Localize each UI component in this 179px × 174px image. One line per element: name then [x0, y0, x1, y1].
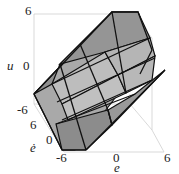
- surface-plot: [0, 0, 179, 174]
- x-tick-neg6: -6: [56, 151, 67, 164]
- y-tick-6: 6: [30, 118, 37, 131]
- z-tick-neg6: -6: [17, 103, 28, 116]
- z-axis-label: u: [7, 59, 14, 72]
- x-tick-6: 6: [164, 151, 171, 164]
- y-axis-label: ė: [30, 141, 36, 154]
- y-tick-0: 0: [46, 133, 53, 146]
- z-tick-0: 0: [23, 59, 30, 72]
- z-tick-6: 6: [25, 4, 32, 17]
- x-axis-label: e: [114, 161, 120, 174]
